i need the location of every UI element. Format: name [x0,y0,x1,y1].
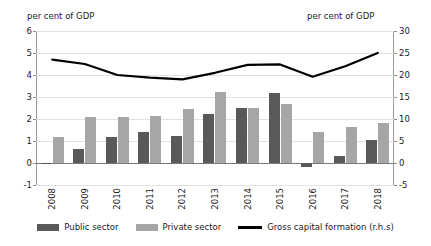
right-tick-label: 15 [399,93,410,102]
x-tick-label-2017: 2017 [340,188,350,210]
right-tick-label: 5 [399,137,404,146]
x-tick-label-2018: 2018 [373,188,383,210]
legend-label: Public sector [64,222,118,232]
plot-area: -10123456 -5051015202530 [36,31,394,185]
legend-item-2[interactable]: Private sector [136,222,222,232]
x-tick-label-2015: 2015 [275,188,285,210]
left-tick-label: 1 [27,137,32,146]
x-tick-label-2012: 2012 [177,188,187,210]
left-tick-label: 6 [27,27,32,36]
chart-legend: Public sectorPrivate sectorGross capital… [0,222,431,232]
left-tick-label: -1 [24,181,32,190]
gross-capital-formation-line [52,53,377,79]
legend-label: Private sector [163,222,222,232]
right-tick-label: 0 [399,159,404,168]
left-axis-title: per cent of GDP [27,11,94,21]
legend-item-3[interactable]: Gross capital formation (r.h.s) [238,222,393,232]
x-tick-label-2013: 2013 [210,188,220,210]
right-tick-mark [394,31,397,32]
right-tick-mark [394,141,397,142]
x-tick-label-2014: 2014 [243,188,253,210]
left-tick-label: 5 [27,49,32,58]
left-tick-label: 3 [27,93,32,102]
right-tick-mark [394,53,397,54]
left-tick-label: 4 [27,71,32,80]
line-series-layer [36,31,394,185]
right-tick-label: 10 [399,115,410,124]
chart-container: per cent of GDP per cent of GDP -1012345… [0,0,431,246]
right-tick-mark [394,97,397,98]
bar-swatch-light-icon [136,224,158,231]
x-tick-label-2010: 2010 [112,188,122,210]
x-tick-label-2011: 2011 [145,188,155,210]
right-tick-mark [394,185,397,186]
x-axis-labels: 2008200920102011201220132014201520162017… [36,188,394,222]
x-tick-label-2008: 2008 [47,188,57,210]
x-tick-label-2016: 2016 [308,188,318,210]
left-tick-mark [33,185,36,186]
right-axis-title: per cent of GDP [307,11,374,21]
left-tick-label: 2 [27,115,32,124]
gridline [36,185,394,186]
right-tick-label: 20 [399,71,410,80]
right-tick-label: -5 [399,181,407,190]
x-tick-label-2009: 2009 [80,188,90,210]
right-tick-label: 25 [399,49,410,58]
left-tick-label: 0 [27,159,32,168]
right-tick-mark [394,75,397,76]
right-tick-mark [394,119,397,120]
right-tick-mark [394,163,397,164]
legend-label: Gross capital formation (r.h.s) [267,222,393,232]
right-tick-label: 30 [399,27,410,36]
bar-swatch-dark-icon [37,224,59,231]
line-swatch-icon [238,226,262,229]
legend-item-1[interactable]: Public sector [37,222,118,232]
